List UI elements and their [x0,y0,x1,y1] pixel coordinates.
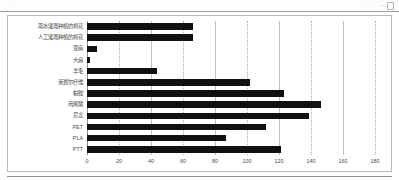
x-axis-tick-labels: 020406080100120140160180 [87,155,375,169]
bar-row [87,99,375,110]
bar-row [87,122,375,133]
y-axis-label: 羊毛 [73,66,83,77]
bar-row [87,66,375,77]
x-tick-20: 20 [116,158,122,164]
bar-row [87,77,375,88]
y-axis-label: 人工灌溉种植的棉花 [38,32,83,43]
x-tick-40: 40 [148,158,154,164]
x-tick-0: 0 [86,158,89,164]
viewer-strip-right-text: ··· ··· [361,1,373,6]
bar-row [87,144,375,155]
y-axis-category-labels: 雨水灌溉种植的棉花人工灌溉种植的棉花亚麻大麻羊毛莱赛尔纤维黏胶丙烯酸尼龙PETP… [8,21,85,155]
bar [87,79,250,86]
x-tick-60: 60 [180,158,186,164]
bar-row [87,43,375,54]
bar-row [87,88,375,99]
plot-area [87,21,375,155]
bar [87,113,309,120]
bar [87,135,226,142]
bar [87,46,97,53]
bar-row [87,32,375,43]
bar-row [87,21,375,32]
x-tick-160: 160 [339,158,348,164]
bar [87,57,90,64]
y-axis-label: 莱赛尔纤维 [58,77,83,88]
minus-icon[interactable]: − [380,2,385,8]
y-axis-label: PLA [73,133,83,144]
viewer-strip-left-text: ··· ··· [4,1,16,6]
y-axis-label: 大麻 [73,55,83,66]
viewer-toolbar-strip: ··· ··· ··· ··· − [0,0,399,12]
bar-row [87,110,375,121]
y-axis-label: 丙烯酸 [68,99,83,110]
y-axis-label: PET [73,122,83,133]
bar [87,124,266,131]
bar-series [87,21,375,155]
page-bottom-rule [7,176,392,177]
x-tick-140: 140 [307,158,316,164]
x-tick-180: 180 [371,158,380,164]
bar [87,34,193,41]
x-tick-80: 80 [212,158,218,164]
y-axis-label: 亚麻 [73,43,83,54]
bar [87,146,281,153]
gridline-180 [375,21,376,155]
bar [87,68,157,75]
bar [87,101,321,108]
bar-row [87,133,375,144]
bar-row [87,55,375,66]
x-tick-120: 120 [275,158,284,164]
x-tick-100: 100 [243,158,252,164]
y-axis-label: 雨水灌溉种植的棉花 [38,21,83,32]
bar [87,23,193,30]
page-icon[interactable] [387,2,394,10]
y-axis-label: 尼龙 [73,110,83,121]
y-axis-label: PTT [73,144,83,155]
y-axis-label: 黏胶 [73,88,83,99]
chart-container: 雨水灌溉种植的棉花人工灌溉种植的棉花亚麻大麻羊毛莱赛尔纤维黏胶丙烯酸尼龙PETP… [7,15,392,172]
bar [87,90,284,97]
